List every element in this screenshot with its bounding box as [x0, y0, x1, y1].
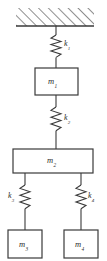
- diagram-canvas: [0, 0, 107, 261]
- mass-subscript-m3: 3: [25, 246, 28, 252]
- mass-subscript-m4: 4: [81, 246, 84, 252]
- mass-label-m4: m4: [75, 240, 84, 251]
- spring-k3: [20, 173, 30, 230]
- spring-k4: [76, 173, 86, 230]
- spring-label-k2: k2: [64, 114, 70, 125]
- spring-subscript-k1: 1: [68, 46, 70, 51]
- mass-subscript-m2: 2: [53, 162, 56, 168]
- mass-label-m2: m2: [47, 156, 56, 167]
- spring-subscript-k2: 2: [68, 120, 70, 125]
- spring-label-k1: k1: [64, 40, 70, 51]
- mass-label-m3: m3: [19, 240, 28, 251]
- spring-label-k4: k4: [88, 192, 94, 203]
- fixed-support-hatching: [16, 8, 94, 26]
- mass-label-m1: m1: [48, 77, 57, 88]
- spring-mass-system-diagram: m1 m2 m3 m4 k1 k2 k3 k4: [0, 0, 107, 261]
- mass-subscript-m1: 1: [54, 83, 57, 89]
- spring-k2: [51, 95, 61, 149]
- spring-subscript-k4: 4: [92, 198, 94, 203]
- spring-k1: [51, 26, 61, 68]
- spring-label-k3: k3: [8, 192, 14, 203]
- spring-subscript-k3: 3: [12, 198, 14, 203]
